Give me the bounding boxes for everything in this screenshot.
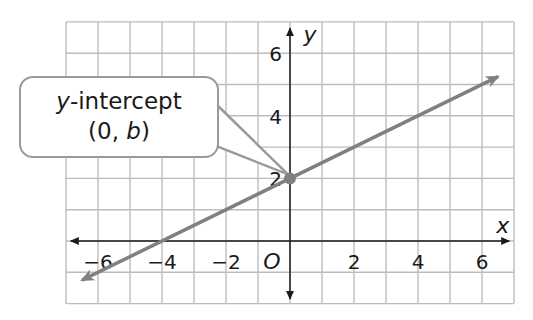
intercept-point [284,172,296,184]
y-intercept-callout: y-intercept (0, b) [19,76,219,158]
axes [71,28,509,299]
origin-label: O [263,249,280,274]
x-tick-label: −4 [147,250,176,274]
x-tick-label: 4 [412,250,425,274]
x-tick-label: 6 [476,250,489,274]
y-intercept-point [284,172,296,184]
y-tick-label: 6 [269,42,282,66]
y-tick-label: 4 [269,105,282,129]
x-axis-label: x [495,213,510,238]
callout-line-2: (0, b) [21,116,217,146]
x-tick-label: 2 [348,250,361,274]
callout-line-1: y-intercept [21,86,217,116]
coordinate-plane: −6−4−2246246Oxy [0,0,533,320]
y-axis-label: y [302,22,317,47]
x-tick-label: −2 [211,250,240,274]
